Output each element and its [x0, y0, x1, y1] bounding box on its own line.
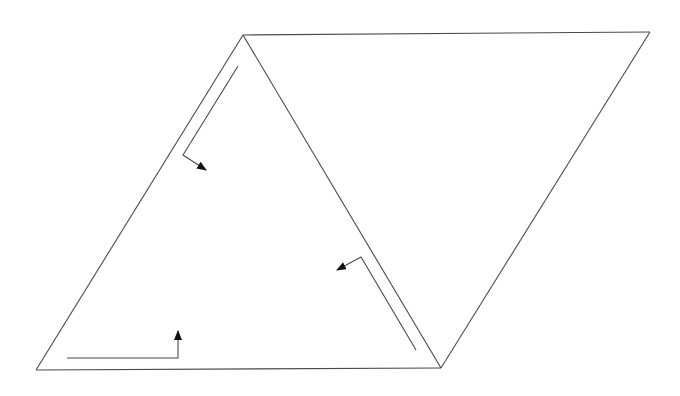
direction-arrows	[67, 66, 416, 358]
left-edge	[36, 35, 243, 370]
parallelogram-diagram	[0, 0, 680, 396]
bottom-edge	[36, 368, 441, 370]
diagonal	[243, 35, 441, 368]
arrow-diagonal-icon	[337, 257, 416, 350]
shape-edges	[36, 32, 650, 370]
top-edge	[243, 32, 650, 35]
arrow-bottom-edge-icon	[67, 331, 178, 358]
right-edge	[441, 32, 650, 368]
